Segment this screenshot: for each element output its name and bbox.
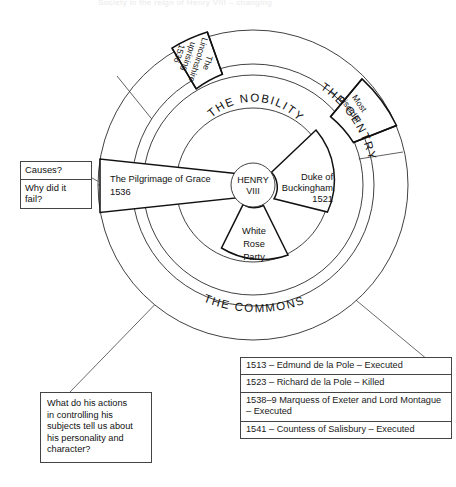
- executions-table[interactable]: 1513 – Edmund de la Pole – Executed 1523…: [240, 357, 452, 439]
- causes-question-line1: Why did it: [25, 182, 87, 194]
- table-row[interactable]: 1541 – Countess of Salisbury – Executed: [241, 422, 451, 438]
- causes-question-line2: fail?: [25, 193, 87, 205]
- diagram-stage: Society in the reign of Henry VIII – cha…: [0, 0, 456, 487]
- table-row[interactable]: 1538–9 Marquess of Exeter and Lord Monta…: [241, 393, 451, 422]
- buckingham-line2: Buckingham: [282, 183, 333, 193]
- table-row[interactable]: 1513 – Edmund de la Pole – Executed: [241, 358, 451, 375]
- label-white-rose-party: White Rose Party: [242, 226, 266, 262]
- table-row[interactable]: 1523 – Richard de la Pole – Killed: [241, 375, 451, 392]
- pilgrimage-line2: 1536: [110, 187, 131, 197]
- white-rose-line1: White: [242, 226, 266, 236]
- question-line4: his personality and: [47, 433, 145, 445]
- white-rose-line2: Rose: [243, 239, 265, 249]
- question-line5: character?: [47, 444, 145, 456]
- pilgrimage-line1: The Pilgrimage of Grace: [110, 174, 211, 184]
- white-rose-line3: Party: [243, 252, 265, 262]
- question-line2: in controlling his: [47, 410, 145, 422]
- question-line3: subjects tell us about: [47, 421, 145, 433]
- causes-title: Causes?: [21, 162, 91, 180]
- hub-label-line2: VIII: [246, 186, 260, 196]
- hub-henry-viii[interactable]: [231, 163, 275, 207]
- personality-question-box[interactable]: What do his actions in controlling his s…: [40, 392, 152, 463]
- buckingham-line1: Duke of: [301, 172, 333, 182]
- causes-question: Why did it fail?: [21, 180, 91, 208]
- buckingham-line3: 1521: [312, 194, 333, 204]
- causes-callout-box[interactable]: Causes? Why did it fail?: [20, 161, 92, 209]
- question-line1: What do his actions: [47, 398, 145, 410]
- hub-label-line1: HENRY: [237, 175, 268, 185]
